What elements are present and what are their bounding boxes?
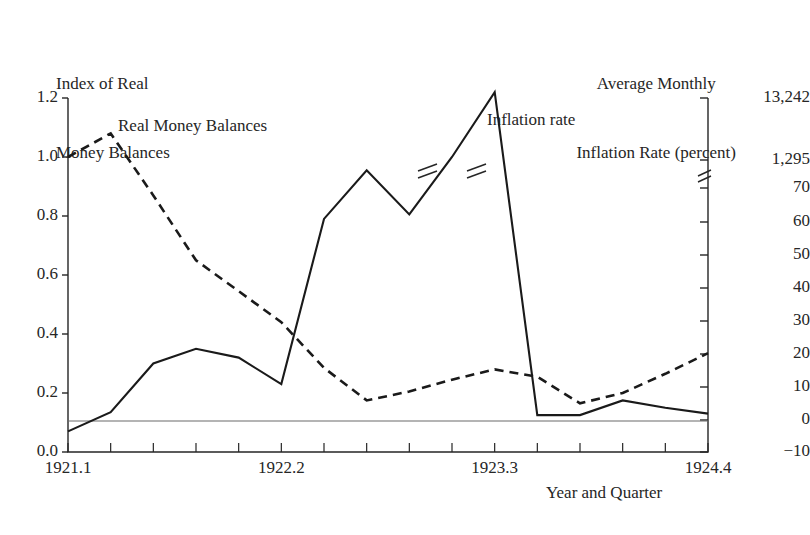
series-line-inflation-rate xyxy=(68,92,708,431)
series-line-real-money-balances xyxy=(68,133,708,403)
right-axis-break-mark xyxy=(698,176,711,182)
right-axis-break-mark xyxy=(698,170,711,176)
axis-frame xyxy=(68,98,708,452)
